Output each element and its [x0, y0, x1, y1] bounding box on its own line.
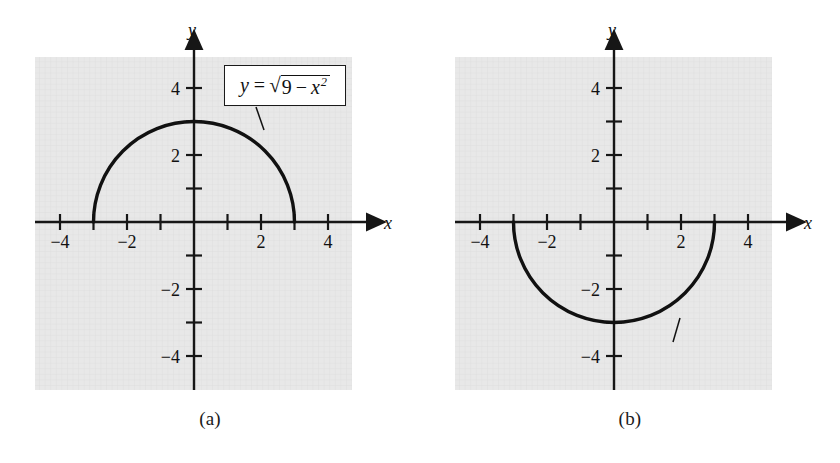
plot-b: x y −4 −2 2 4 4 2 −2 −4 — [420, 0, 840, 463]
panel-b: x y −4 −2 2 4 4 2 −2 −4 y=−√9−x2 (b) — [420, 0, 840, 463]
equation-callout-a: y=√9−x2 — [224, 65, 346, 106]
x-tick-label--2: −2 — [117, 232, 136, 252]
equation-a: y=√9−x2 — [240, 75, 330, 97]
equation-a-lhs: y — [240, 75, 250, 95]
equation-a-equals: = — [250, 75, 269, 95]
radical-a: √9−x2 — [269, 75, 330, 97]
radicand-a-first: 9 — [282, 76, 292, 98]
x-tick-label--4: −4 — [470, 232, 489, 252]
x-axis-label-b: x — [803, 213, 812, 233]
y-tick-label-2: 2 — [171, 146, 180, 166]
x-tick-label-2: 2 — [257, 232, 266, 252]
y-tick-label-4: 4 — [591, 79, 600, 99]
x-tick-label-4: 4 — [324, 232, 333, 252]
radicand-a-exponent: 2 — [321, 75, 327, 89]
x-tick-label--4: −4 — [50, 232, 69, 252]
y-axis-label-a: y — [186, 20, 196, 40]
x-tick-label-4: 4 — [744, 232, 753, 252]
plot-a: x y −4 −2 2 4 4 2 −2 −4 — [0, 0, 420, 463]
x-axis-label-a: x — [383, 213, 392, 233]
x-tick-label-2: 2 — [677, 232, 686, 252]
radical-sign-a: √ — [269, 75, 281, 97]
x-tick-label--2: −2 — [537, 232, 556, 252]
y-axis-label-b: y — [606, 20, 616, 40]
panel-caption-a: (a) — [0, 408, 420, 430]
radicand-a-op: − — [292, 76, 311, 98]
y-tick-label--4: −4 — [161, 347, 180, 367]
y-tick-label-2: 2 — [591, 146, 600, 166]
y-tick-label--2: −2 — [581, 280, 600, 300]
figure-container: x y −4 −2 2 4 4 2 −2 −4 y=√9−x2 (a) — [0, 0, 840, 463]
y-tick-label-4: 4 — [171, 79, 180, 99]
panel-a: x y −4 −2 2 4 4 2 −2 −4 y=√9−x2 (a) — [0, 0, 420, 463]
panel-caption-b: (b) — [420, 408, 840, 430]
radicand-a-var: x — [311, 76, 321, 98]
y-tick-label--4: −4 — [581, 347, 600, 367]
y-tick-label--2: −2 — [161, 280, 180, 300]
radicand-a: 9−x2 — [281, 75, 330, 97]
